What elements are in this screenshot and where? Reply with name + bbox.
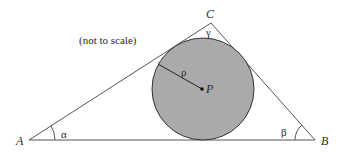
vertex-label-b: B bbox=[321, 134, 329, 148]
angle-label-gamma: γ bbox=[205, 26, 211, 38]
vertex-label-a: A bbox=[15, 134, 24, 148]
angle-arc-beta bbox=[295, 125, 302, 140]
radius-label: ρ bbox=[181, 66, 187, 78]
angle-arc-alpha bbox=[51, 126, 55, 140]
angle-label-alpha: α bbox=[61, 128, 67, 140]
center-label: P bbox=[205, 82, 214, 96]
triangle-incircle-diagram: A B C α β γ ρ P (not to scale) bbox=[0, 0, 345, 153]
not-to-scale-note: (not to scale) bbox=[79, 34, 137, 47]
angle-label-beta: β bbox=[281, 126, 287, 138]
vertex-label-c: C bbox=[206, 7, 215, 21]
center-point bbox=[200, 87, 204, 91]
diagram-canvas: A B C α β γ ρ P (not to scale) bbox=[0, 0, 345, 153]
